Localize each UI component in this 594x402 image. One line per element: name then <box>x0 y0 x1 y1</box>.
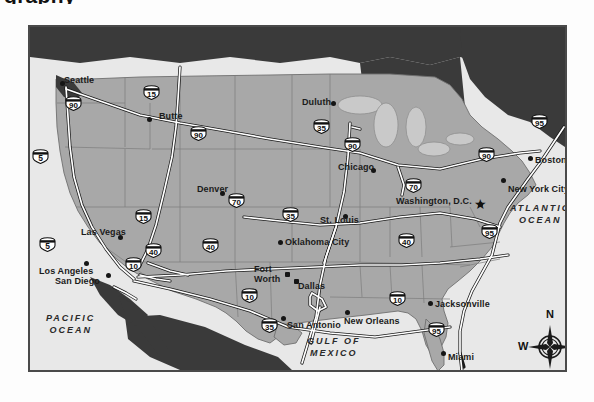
shield-icon: 90 <box>343 137 362 152</box>
city-label-butte: Butte <box>159 112 183 121</box>
shield-icon: 40 <box>397 233 416 248</box>
svg-text:35: 35 <box>286 212 295 221</box>
city-label-dallas: Dallas <box>298 282 325 291</box>
city-label-denver: Denver <box>197 185 228 194</box>
city-label-new-york-city: New York City <box>508 185 567 194</box>
city-dot-san-diego[interactable] <box>106 273 111 278</box>
city-dot-oklahoma-city[interactable] <box>278 240 283 245</box>
shield-icon: 70 <box>227 193 246 208</box>
city-label-fort-worth: Fort Worth <box>254 264 280 284</box>
gulf-of-mexico-line2: MEXICO <box>307 347 361 359</box>
interstate-shield-i-10-east[interactable]: 10 <box>388 291 407 306</box>
shield-icon: 35 <box>312 119 331 134</box>
city-dot-miami[interactable] <box>441 351 446 356</box>
svg-text:5: 5 <box>45 241 50 251</box>
shield-icon: 15 <box>134 209 153 224</box>
city-dot-fort-worth[interactable] <box>285 272 290 277</box>
svg-text:40: 40 <box>206 243 215 252</box>
pacific-ocean-label: PACIFICOCEAN <box>46 312 95 336</box>
interstate-shield-i-40-west[interactable]: 40 <box>144 243 163 258</box>
gulf-of-mexico-line1: GULF OF <box>307 335 361 347</box>
shield-icon: 15 <box>142 85 161 100</box>
city-dot-new-york-city[interactable] <box>501 178 506 183</box>
city-dot-new-orleans[interactable] <box>345 310 350 315</box>
shield-icon: 70 <box>404 178 423 193</box>
shield-icon: 95 <box>530 114 549 129</box>
svg-text:90: 90 <box>194 131 203 140</box>
interstate-shield-i-5-north[interactable]: 5 <box>31 149 50 164</box>
shield-icon: 90 <box>477 147 496 162</box>
city-dot-jacksonville[interactable] <box>428 301 433 306</box>
city-label-st-louis: St. Louis <box>320 216 359 225</box>
svg-text:10: 10 <box>129 262 138 271</box>
svg-text:90: 90 <box>69 101 78 110</box>
interstate-shield-i-35-central[interactable]: 35 <box>281 207 300 222</box>
interstate-shield-i-40-central[interactable]: 40 <box>201 238 220 253</box>
interstate-shield-i-35-north[interactable]: 35 <box>312 119 331 134</box>
city-dot-butte[interactable] <box>147 117 152 122</box>
city-dot-boston[interactable] <box>528 156 533 161</box>
city-label-oklahoma-city: Oklahoma City <box>285 238 349 247</box>
interstate-shield-i-40-east[interactable]: 40 <box>397 233 416 248</box>
interstate-shield-i-15-north[interactable]: 15 <box>142 85 161 100</box>
city-dot-duluth[interactable] <box>331 101 336 106</box>
city-label-duluth: Duluth <box>302 98 331 107</box>
atlantic-ocean-line2: OCEAN <box>510 214 567 226</box>
interstate-shield-i-70-east[interactable]: 70 <box>404 178 423 193</box>
svg-text:95: 95 <box>535 119 544 128</box>
svg-text:40: 40 <box>149 248 158 257</box>
svg-text:10: 10 <box>393 296 402 305</box>
interstate-shield-i-10-texas[interactable]: 10 <box>240 288 259 303</box>
atlantic-ocean-line1: ATLANTIC <box>510 202 567 214</box>
compass-rose: N S E W <box>519 309 567 372</box>
interstate-shield-i-15-vegas[interactable]: 15 <box>134 209 153 224</box>
city-label-boston: Boston <box>535 156 567 165</box>
city-dot-san-antonio[interactable] <box>281 316 286 321</box>
shield-icon: 90 <box>189 126 208 141</box>
interstate-shield-i-90-west[interactable]: 90 <box>64 96 83 111</box>
svg-text:35: 35 <box>265 323 274 332</box>
atlantic-ocean-label: ATLANTICOCEAN <box>510 202 567 226</box>
interstate-shield-i-95-florida[interactable]: 95 <box>427 322 446 337</box>
svg-text:95: 95 <box>432 327 441 336</box>
interstate-shield-i-70-denver[interactable]: 70 <box>227 193 246 208</box>
cut-off-heading: graphy <box>0 0 594 4</box>
city-label-seattle: Seattle <box>64 76 94 85</box>
shield-icon: 40 <box>201 238 220 253</box>
svg-text:15: 15 <box>147 90 156 99</box>
interstate-shield-i-95-north[interactable]: 95 <box>530 114 549 129</box>
svg-text:10: 10 <box>245 293 254 302</box>
svg-text:5: 5 <box>38 153 43 163</box>
shield-icon: 35 <box>281 207 300 222</box>
svg-text:70: 70 <box>409 183 418 192</box>
interstate-shield-i-90-east[interactable]: 90 <box>477 147 496 162</box>
pacific-ocean-line2: OCEAN <box>46 324 95 336</box>
interstate-shield-i-90-chicago[interactable]: 90 <box>343 137 362 152</box>
interstate-shield-i-5-socal[interactable]: 5 <box>38 237 57 252</box>
shield-icon: 10 <box>124 257 143 272</box>
pacific-ocean-line1: PACIFIC <box>46 312 95 324</box>
city-label-las-vegas: Las Vegas <box>81 228 126 237</box>
city-label-los-angeles: Los Angeles <box>39 267 93 276</box>
interstate-shield-i-35-texas[interactable]: 35 <box>260 318 279 333</box>
shield-icon: 5 <box>38 237 57 252</box>
shield-icon: 95 <box>480 224 499 239</box>
city-label-san-diego: San Diego <box>55 277 100 286</box>
svg-text:15: 15 <box>139 214 148 223</box>
map-page: graphy <box>0 0 594 402</box>
svg-text:40: 40 <box>402 238 411 247</box>
city-label-jacksonville: Jacksonville <box>435 300 490 309</box>
svg-text:90: 90 <box>348 142 357 151</box>
city-label-chicago: Chicago <box>338 163 374 172</box>
city-label-new-orleans: New Orleans <box>344 317 400 326</box>
svg-text:35: 35 <box>317 124 326 133</box>
compass-west: W <box>518 340 528 352</box>
shield-icon: 35 <box>260 318 279 333</box>
interstate-shield-i-10-west[interactable]: 10 <box>124 257 143 272</box>
united-states-map: PACIFICOCEANATLANTICOCEANGULF OFMEXICO S… <box>28 25 567 372</box>
svg-text:95: 95 <box>485 229 494 238</box>
city-label-miami: Miami <box>448 353 474 362</box>
interstate-shield-i-90-dakota[interactable]: 90 <box>189 126 208 141</box>
shield-icon: 10 <box>388 291 407 306</box>
interstate-shield-i-95-dc[interactable]: 95 <box>480 224 499 239</box>
